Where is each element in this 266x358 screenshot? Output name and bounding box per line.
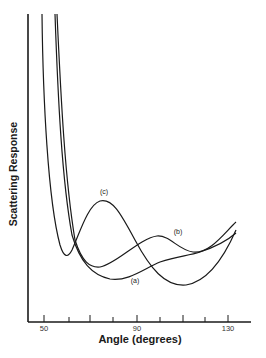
chart-canvas xyxy=(0,0,266,358)
curve-label-b: (b) xyxy=(174,228,183,235)
x-tick-label-130: 130 xyxy=(222,324,235,333)
curve-b xyxy=(57,14,236,267)
x-tick-label-90: 90 xyxy=(133,324,141,333)
curve-label-c: (c) xyxy=(100,188,108,195)
x-major-ticks xyxy=(44,315,228,322)
x-axis-label: Angle (degrees) xyxy=(0,333,266,345)
x-tick-label-50: 50 xyxy=(40,324,48,333)
y-axis-label: Scattering Response xyxy=(7,109,19,239)
curve-label-a: (a) xyxy=(131,277,140,284)
